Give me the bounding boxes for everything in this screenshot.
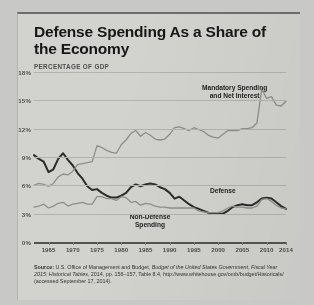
gridline-6%: [34, 185, 286, 186]
x-axis-tick: [194, 242, 195, 245]
x-axis-tick: [97, 242, 98, 245]
y-axis-tick-label: 12%: [18, 125, 31, 132]
x-axis-tick: [242, 242, 243, 245]
y-axis-tick-label: 0%: [22, 239, 31, 246]
gridline-12%: [34, 129, 286, 130]
annotation-defense: Defense: [210, 187, 236, 195]
page-title: Defense Spending As a Share of the Econo…: [34, 23, 284, 57]
x-axis-tick-label: 2010: [260, 246, 274, 253]
y-axis-tick-label: 6%: [22, 182, 31, 189]
x-axis-tick-label: 1970: [66, 246, 80, 253]
y-axis-tick-label: 3%: [22, 210, 31, 217]
chart-plot-area: Mandatory Spendingand Net Interest Defen…: [34, 72, 286, 242]
x-axis-tick: [218, 242, 219, 245]
scan-page: Defense Spending As a Share of the Econo…: [0, 0, 314, 305]
gridline-3%: [34, 214, 286, 215]
gridline-9%: [34, 157, 286, 158]
annotation-mandatory-spending: Mandatory Spendingand Net Interest: [202, 84, 267, 100]
x-axis-tick: [145, 242, 146, 245]
y-axis-tick-label: 15%: [18, 97, 31, 104]
x-axis-tick-label: 1990: [163, 246, 177, 253]
x-axis-tick-label: 1985: [139, 246, 153, 253]
x-axis-tick-label: 2000: [211, 246, 225, 253]
source-note: Source: U.S. Office of Management and Bu…: [34, 264, 284, 286]
series-line-mandatory-spending-and-net-interest: [34, 89, 286, 186]
x-axis-tick-label: 1980: [114, 246, 128, 253]
x-axis-tick: [49, 242, 50, 245]
x-axis-tick-label: 2014: [279, 246, 293, 253]
y-axis-title: PERCENTAGE OF GDP: [34, 63, 109, 70]
x-axis-tick: [267, 242, 268, 245]
x-axis-tick-label: 2005: [235, 246, 249, 253]
x-axis-tick: [73, 242, 74, 245]
x-axis-tick: [170, 242, 171, 245]
x-axis-tick-label: 1965: [42, 246, 56, 253]
y-axis-tick-label: 9%: [22, 154, 31, 161]
x-axis-tick-label: 1995: [187, 246, 201, 253]
gridline-15%: [34, 100, 286, 101]
gridline-18%: [34, 72, 286, 73]
y-axis-tick-label: 18%: [18, 69, 31, 76]
annotation-non-defense-spending: Non-DefenseSpending: [122, 213, 178, 229]
chart-card: Defense Spending As a Share of the Econo…: [17, 12, 300, 300]
x-axis-tick: [286, 242, 287, 245]
x-axis-tick: [121, 242, 122, 245]
x-axis-tick-label: 1975: [90, 246, 104, 253]
